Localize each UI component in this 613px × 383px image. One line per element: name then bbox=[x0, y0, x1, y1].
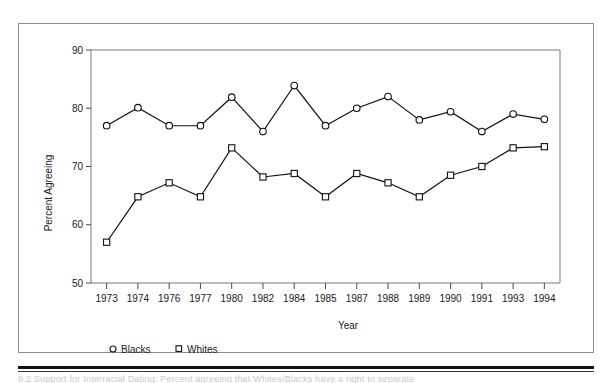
y-tick-label: 70 bbox=[72, 161, 84, 172]
data-point-marker bbox=[541, 144, 547, 150]
data-point-marker bbox=[447, 172, 453, 178]
x-tick-label: 1988 bbox=[377, 293, 400, 304]
series-whites bbox=[104, 144, 548, 246]
x-tick-label: 1991 bbox=[471, 293, 494, 304]
x-axis-title: Year bbox=[338, 320, 359, 331]
data-point-marker bbox=[197, 194, 203, 200]
data-series-group bbox=[103, 82, 547, 245]
data-point-marker bbox=[135, 194, 141, 200]
x-tick-label: 1976 bbox=[158, 293, 181, 304]
data-point-marker bbox=[385, 93, 392, 100]
data-point-marker bbox=[416, 117, 423, 124]
y-tick-label: 60 bbox=[72, 219, 84, 230]
x-tick-label: 1982 bbox=[252, 293, 275, 304]
plot-area-frame bbox=[91, 50, 560, 283]
data-point-marker bbox=[260, 174, 266, 180]
x-tick-label: 1985 bbox=[314, 293, 337, 304]
data-point-marker bbox=[104, 239, 110, 245]
data-point-marker bbox=[103, 122, 110, 129]
data-point-marker bbox=[322, 122, 329, 129]
data-point-marker bbox=[354, 170, 360, 176]
x-tick-label: 1977 bbox=[189, 293, 212, 304]
legend-circle-icon bbox=[110, 346, 116, 352]
data-point-marker bbox=[447, 108, 454, 115]
data-point-marker bbox=[228, 94, 235, 101]
y-tick-label: 80 bbox=[72, 103, 84, 114]
data-point-marker bbox=[166, 122, 173, 129]
data-point-marker bbox=[322, 194, 328, 200]
y-tick-label: 90 bbox=[72, 45, 84, 56]
data-point-marker bbox=[416, 194, 422, 200]
legend-label: Whites bbox=[187, 344, 218, 353]
data-point-marker bbox=[385, 180, 391, 186]
chart-legend: BlacksWhites bbox=[110, 344, 218, 353]
caption-cut-off-text: 9.2 Support for Interracial Dating: Perc… bbox=[18, 374, 594, 383]
x-tick-label: 1993 bbox=[502, 293, 525, 304]
data-point-marker bbox=[541, 116, 548, 123]
data-point-marker bbox=[291, 82, 298, 89]
y-tick-label: 50 bbox=[72, 278, 84, 289]
data-point-marker bbox=[510, 145, 516, 151]
legend-label: Blacks bbox=[121, 344, 150, 353]
data-point-marker bbox=[479, 128, 486, 135]
data-point-marker bbox=[353, 105, 360, 112]
x-tick-label: 1980 bbox=[221, 293, 244, 304]
series-blacks bbox=[103, 82, 547, 135]
x-tick-label: 1987 bbox=[346, 293, 369, 304]
x-tick-label: 1989 bbox=[408, 293, 431, 304]
y-axis-title: Percent Agreeing bbox=[43, 155, 54, 232]
data-point-marker bbox=[197, 122, 204, 129]
data-point-marker bbox=[260, 128, 267, 135]
figure-root: 5060708090 19731974197619771980198219841… bbox=[0, 0, 613, 383]
x-tick-label: 1984 bbox=[283, 293, 306, 304]
bottom-divider-rule bbox=[18, 366, 594, 369]
x-tick-label: 1990 bbox=[439, 293, 462, 304]
data-point-marker bbox=[291, 170, 297, 176]
data-point-marker bbox=[229, 145, 235, 151]
x-tick-label: 1994 bbox=[533, 293, 556, 304]
y-axis: 5060708090 bbox=[72, 45, 91, 289]
x-axis: 1973197419761977198019821984198519871988… bbox=[91, 283, 560, 304]
legend-square-icon bbox=[176, 346, 182, 352]
x-tick-label: 1974 bbox=[127, 293, 150, 304]
data-point-marker bbox=[135, 104, 142, 111]
x-tick-label: 1973 bbox=[96, 293, 119, 304]
data-point-marker bbox=[166, 180, 172, 186]
line-chart: 5060708090 19731974197619771980198219841… bbox=[18, 23, 594, 353]
bottom-divider-rule-thin bbox=[18, 371, 594, 372]
data-point-marker bbox=[479, 163, 485, 169]
data-point-marker bbox=[510, 111, 517, 118]
